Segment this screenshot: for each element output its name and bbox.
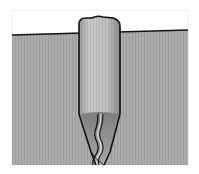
tuck-illustration — [0, 0, 199, 174]
